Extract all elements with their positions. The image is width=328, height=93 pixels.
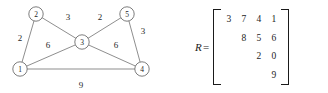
matrix-figure: R = 3 7 4 1 8 5 6 2 — [164, 0, 328, 93]
edge-weight-1-2: 2 — [18, 33, 23, 43]
cell-r1c2: 7 — [236, 10, 251, 29]
edge-1-2 — [20, 14, 36, 69]
cell-r4c3 — [251, 66, 266, 85]
node-5-label: 5 — [125, 10, 129, 19]
edge-weight-1-4: 9 — [79, 80, 84, 90]
weighted-graph: 1 2 3 4 5 2 3 6 2 6 3 9 — [0, 0, 164, 93]
edge-3-5 — [82, 14, 127, 42]
edge-1-3 — [20, 42, 82, 69]
cell-r3c2 — [236, 47, 251, 66]
table-row: 2 0 — [221, 47, 281, 66]
graph-canvas: 1 2 3 4 5 2 3 6 2 6 3 9 — [0, 0, 164, 93]
table-row: 9 — [221, 66, 281, 85]
figure-root: 1 2 3 4 5 2 3 6 2 6 3 9 — [0, 0, 328, 93]
matrix-table: 3 7 4 1 8 5 6 2 0 — [221, 10, 281, 84]
equals-sign: = — [203, 41, 209, 53]
cell-r1c1: 3 — [221, 10, 236, 29]
cell-r4c1 — [221, 66, 236, 85]
cell-r2c4: 6 — [266, 29, 281, 48]
cell-r3c3: 2 — [251, 47, 266, 66]
matrix-name-label: R — [195, 41, 202, 53]
edge-weight-3-5: 2 — [98, 12, 103, 22]
table-row: 8 5 6 — [221, 29, 281, 48]
cell-r2c3: 5 — [251, 29, 266, 48]
graph-nodes: 1 2 3 4 5 — [13, 7, 149, 76]
edge-weight-5-4: 3 — [141, 26, 146, 36]
node-4-label: 4 — [140, 65, 144, 74]
edge-weight-3-4: 6 — [114, 40, 119, 50]
cell-r4c2 — [236, 66, 251, 85]
cell-r2c1 — [221, 29, 236, 48]
left-bracket — [213, 9, 221, 85]
edge-weight-labels: 2 3 6 2 6 3 9 — [18, 12, 146, 90]
cell-r2c2: 8 — [236, 29, 251, 48]
table-row: 3 7 4 1 — [221, 10, 281, 29]
node-2-label: 2 — [34, 10, 38, 19]
matrix-expression: R = 3 7 4 1 8 5 6 2 — [195, 9, 289, 85]
cell-r4c4: 9 — [266, 66, 281, 85]
edge-weight-2-3: 3 — [66, 12, 71, 22]
cell-r1c3: 4 — [251, 10, 266, 29]
cell-r1c4: 1 — [266, 10, 281, 29]
edge-5-4 — [127, 14, 142, 69]
edge-weight-1-3: 6 — [46, 40, 51, 50]
edge-2-3 — [36, 14, 82, 42]
node-3-label: 3 — [80, 38, 84, 47]
cell-r3c1 — [221, 47, 236, 66]
right-bracket — [281, 9, 289, 85]
cell-r3c4: 0 — [266, 47, 281, 66]
node-1-label: 1 — [18, 65, 22, 74]
edge-3-4 — [82, 42, 142, 69]
